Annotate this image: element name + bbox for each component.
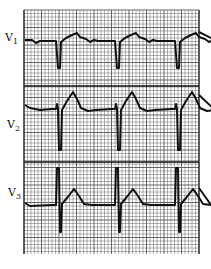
lead-label-v3: V3 [8,186,21,201]
lead-label-v1: V1 [5,31,18,46]
ecg-figure [0,0,211,269]
lead-label-v2: V2 [7,118,20,133]
trace-v3 [25,168,211,232]
ecg-traces [25,32,211,232]
trace-v2 [25,92,211,150]
ecg-grid [24,10,199,254]
